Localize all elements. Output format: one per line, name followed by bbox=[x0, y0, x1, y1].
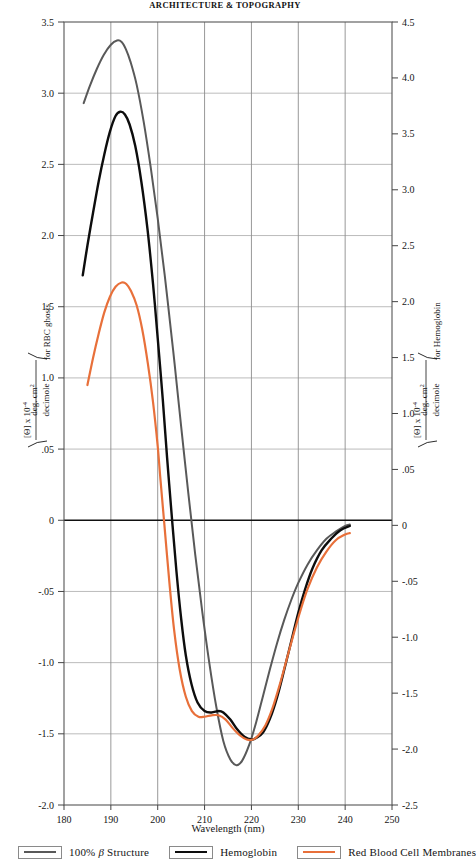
x-tick-label: 200 bbox=[150, 814, 165, 825]
left-axis-title-suffix: for RBC ghosts bbox=[42, 303, 52, 360]
y-tick-label-left: 0 bbox=[49, 515, 54, 526]
y-tick-label-right: -2.5 bbox=[402, 800, 418, 811]
x-tick-label: 230 bbox=[291, 814, 306, 825]
svg-text:decimole: decimole bbox=[41, 384, 51, 417]
y-tick-label-right: 4.5 bbox=[402, 17, 415, 28]
x-axis-caption: Wavelength (nm) bbox=[192, 823, 265, 835]
left-axis-units: deg. cm2 decimole bbox=[29, 384, 51, 417]
y-tick-label-right: 0 bbox=[402, 520, 407, 531]
legend-item-hemoglobin[interactable]: Hemoglobin bbox=[169, 846, 277, 859]
legend-color-bar bbox=[24, 851, 56, 854]
y-tick-label-right: 2.5 bbox=[402, 240, 415, 251]
right-axis-title-suffix: for Hemoglobin bbox=[432, 302, 442, 360]
y-tick-label-left: 2.0 bbox=[42, 230, 55, 241]
y-tick-label-left: .05 bbox=[42, 444, 55, 455]
x-tick-label: 250 bbox=[385, 814, 400, 825]
legend-swatch-hemoglobin bbox=[169, 846, 213, 859]
legend-color-bar bbox=[303, 851, 335, 854]
y-tick-label-right: 3.0 bbox=[402, 184, 415, 195]
y-tick-label-left: 3.5 bbox=[42, 17, 55, 28]
y-tick-label-left: -1.5 bbox=[38, 728, 54, 739]
y-tick-label-right: -1.5 bbox=[402, 688, 418, 699]
y-tick-label-right: -.05 bbox=[402, 576, 418, 587]
svg-text:for Hemoglobin: for Hemoglobin bbox=[432, 302, 442, 360]
plot-area: 1801902002102202302402503.53.02.52.01.51… bbox=[0, 0, 450, 838]
y-tick-label-left: -2.0 bbox=[38, 800, 54, 811]
y-tick-label-left: -1.0 bbox=[38, 657, 54, 668]
series-line-hemoglobin bbox=[83, 112, 350, 740]
svg-text:for RBC ghosts: for RBC ghosts bbox=[42, 303, 52, 360]
legend-label-red-blood-cell-membranes: Red Blood Cell Membranes bbox=[348, 846, 476, 858]
legend-swatch-red-blood-cell-membranes bbox=[297, 846, 341, 859]
tick-labels: 1801902002102202302402503.53.02.52.01.51… bbox=[38, 17, 418, 826]
legend-label-hemoglobin: Hemoglobin bbox=[220, 846, 277, 858]
legend: 100% β StructureHemoglobinRed Blood Cell… bbox=[0, 838, 450, 866]
y-tick-label-right: 1.5 bbox=[402, 352, 415, 363]
legend-swatch-beta-structure bbox=[18, 846, 62, 859]
y-tick-label-right: 3.5 bbox=[402, 128, 415, 139]
y-tick-label-right: 4.0 bbox=[402, 72, 415, 83]
plot-frame bbox=[64, 22, 392, 805]
y-tick-label-right: .05 bbox=[402, 464, 415, 475]
y-tick-label-left: 3.0 bbox=[42, 88, 55, 99]
y-tick-label-right: -2.0 bbox=[402, 744, 418, 755]
y-tick-label-right: -1.0 bbox=[402, 632, 418, 643]
svg-text:decimole: decimole bbox=[431, 384, 441, 417]
legend-label-beta-structure: 100% β Structure bbox=[69, 846, 149, 858]
x-tick-label: 190 bbox=[103, 814, 118, 825]
svg-text:deg. cm2: deg. cm2 bbox=[419, 384, 429, 416]
y-tick-label-right: 2.0 bbox=[402, 296, 415, 307]
y-tick-label-left: 2.5 bbox=[42, 159, 55, 170]
axis-ticks bbox=[58, 22, 398, 810]
x-tick-label: 240 bbox=[338, 814, 353, 825]
legend-item-beta-structure[interactable]: 100% β Structure bbox=[18, 846, 149, 859]
y-tick-label-left: 1.0 bbox=[42, 372, 55, 383]
grid-lines bbox=[64, 22, 392, 805]
legend-item-red-blood-cell-membranes[interactable]: Red Blood Cell Membranes bbox=[297, 846, 476, 859]
svg-text:deg. cm2: deg. cm2 bbox=[29, 384, 39, 416]
y-tick-label-left: -.05 bbox=[38, 586, 54, 597]
legend-row: 100% β StructureHemoglobinRed Blood Cell… bbox=[0, 838, 450, 866]
series-line-100-structure bbox=[84, 40, 350, 765]
data-series bbox=[83, 40, 350, 765]
series-line-red-blood-cell-membranes bbox=[87, 282, 349, 740]
right-axis-units: deg. cm2 decimole bbox=[419, 384, 441, 417]
x-tick-label: 180 bbox=[57, 814, 72, 825]
legend-color-bar bbox=[175, 851, 207, 854]
